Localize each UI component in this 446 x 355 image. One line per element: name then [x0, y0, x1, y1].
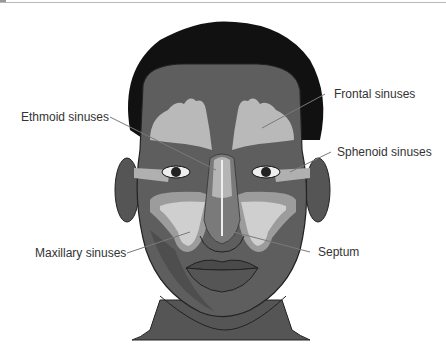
label-ethmoid-sinuses: Ethmoid sinuses [21, 110, 109, 124]
left-ear [115, 158, 139, 222]
label-frontal-sinuses: Frontal sinuses [334, 87, 415, 101]
face-illustration [0, 0, 446, 355]
label-sphenoid-sinuses: Sphenoid sinuses [337, 145, 432, 159]
label-maxillary-sinuses: Maxillary sinuses [35, 246, 126, 260]
label-septum: Septum [318, 245, 359, 259]
right-ear [306, 158, 330, 222]
